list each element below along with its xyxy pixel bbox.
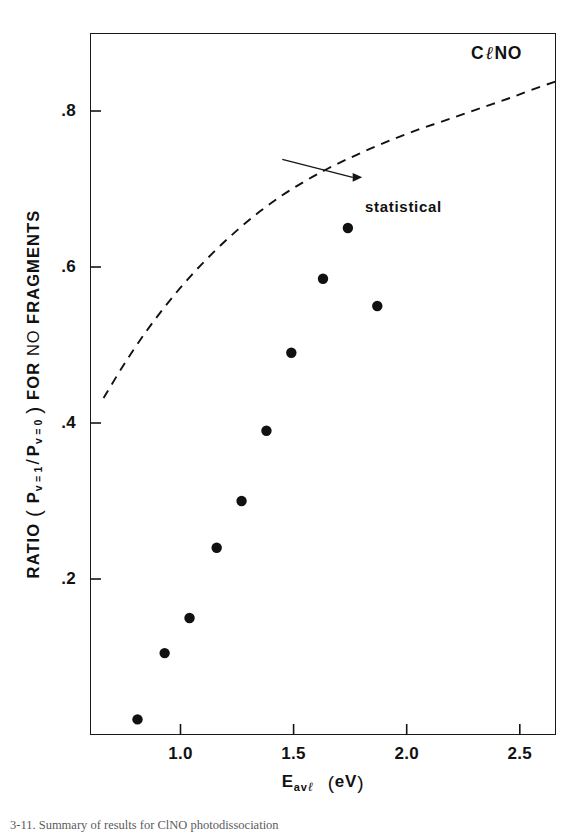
figure-caption: 3-11. Summary of results for ClNO photod… — [10, 818, 574, 833]
tick-marks — [90, 111, 520, 735]
data-point — [211, 543, 221, 553]
y-title-p1-subscript: v = 1 — [32, 467, 44, 492]
y-title-open-paren: ( — [22, 509, 45, 517]
species-label-ell: ℓ — [484, 43, 494, 63]
y-title-fragments: FRAGMENTS — [24, 210, 42, 324]
data-point — [343, 223, 353, 233]
y-title-p0: P — [24, 444, 42, 456]
y-tick-label: .2 — [61, 569, 76, 589]
data-point — [236, 496, 246, 506]
data-point — [318, 274, 328, 284]
y-axis-title: RATIO ( Pv = 1/Pv = 0 ) FOR NO FRAGMENTS — [22, 64, 46, 724]
y-tick-label: .8 — [61, 101, 76, 121]
x-tick-label: 1.5 — [281, 744, 306, 764]
species-label-prefix: C — [471, 43, 484, 63]
species-label-suffix: NO — [495, 43, 522, 63]
data-point — [132, 714, 142, 724]
x-title-e: E — [282, 772, 294, 791]
y-title-ratio: RATIO — [24, 523, 42, 579]
y-title-no: NO — [24, 330, 42, 356]
y-title-for: FOR — [24, 362, 42, 400]
data-point — [261, 426, 271, 436]
annotation-leader-line — [282, 159, 362, 181]
x-title-open-paren: ( — [328, 772, 335, 793]
x-axis-title: Eavℓ(eV) — [90, 772, 556, 795]
statistical-annotation-label: statistical — [365, 198, 442, 215]
x-tick-label: 1.0 — [168, 744, 193, 764]
data-point — [159, 648, 169, 658]
x-tick-label: 2.0 — [394, 744, 419, 764]
y-title-p1: P — [24, 491, 42, 503]
x-tick-label: 2.5 — [508, 744, 533, 764]
x-title-e-subscript-ell: ℓ — [308, 780, 314, 794]
data-point — [286, 348, 296, 358]
data-point-group — [132, 223, 382, 725]
statistical-curve — [104, 81, 556, 398]
y-title-p0-subscript: v = 0 — [32, 419, 44, 444]
x-title-unit: eV — [335, 772, 357, 791]
species-label: CℓNO — [471, 43, 522, 64]
y-tick-label: .6 — [61, 257, 76, 277]
data-point — [372, 301, 382, 311]
x-title-close-paren: ) — [357, 772, 364, 793]
y-title-close-paren: ) — [22, 406, 45, 414]
y-title-slash: / — [22, 456, 43, 466]
x-title-e-subscript: av — [294, 781, 308, 793]
data-point — [184, 613, 194, 623]
y-tick-label: .4 — [61, 413, 76, 433]
